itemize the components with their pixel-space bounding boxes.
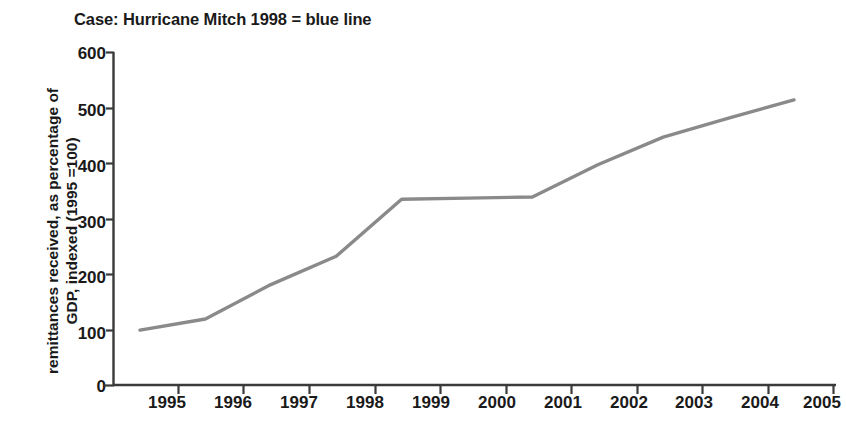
x-tick-label-2000: 2000 bbox=[464, 394, 530, 411]
x-tick-label-1998: 1998 bbox=[332, 394, 398, 411]
x-tick-label-1995: 1995 bbox=[134, 394, 200, 411]
x-tick-label-2004: 2004 bbox=[727, 394, 793, 411]
x-tick-label-1999: 1999 bbox=[398, 394, 464, 411]
x-tick-label-2005: 2005 bbox=[789, 394, 846, 411]
x-tick-label-1997: 1997 bbox=[266, 394, 332, 411]
x-tick-label-2001: 2001 bbox=[530, 394, 596, 411]
x-tick-label-1996: 1996 bbox=[200, 394, 266, 411]
x-tick-label-2002: 2002 bbox=[596, 394, 662, 411]
x-tick-label-2003: 2003 bbox=[661, 394, 727, 411]
